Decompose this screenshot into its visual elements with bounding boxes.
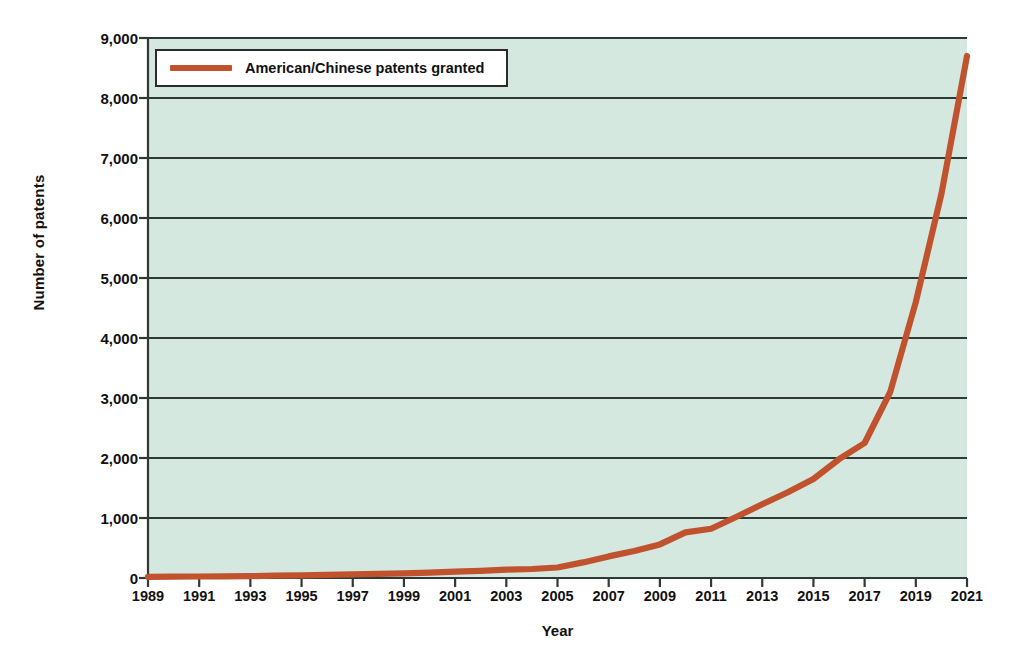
x-tick-label: 2009 [644,588,676,604]
x-tick-label: 1997 [337,588,369,604]
x-tick-label: 2021 [951,588,983,604]
x-tick-label: 1991 [183,588,215,604]
plot-area [0,0,1020,660]
legend-line-swatch [170,65,232,71]
x-tick-label: 1993 [234,588,266,604]
x-tick-label: 2015 [797,588,829,604]
x-tick-label: 1995 [285,588,317,604]
x-tick-label: 2005 [541,588,573,604]
y-axis [139,38,148,578]
x-tick-label: 2019 [900,588,932,604]
x-tick-label: 2011 [695,588,726,604]
x-axis-title: Year [148,622,967,639]
x-tick-label: 1989 [132,588,164,604]
x-tick-label: 2017 [848,588,880,604]
x-tick-label: 2003 [490,588,522,604]
legend-label: American/Chinese patents granted [245,60,484,76]
x-axis [148,578,967,587]
x-tick-label: 2013 [746,588,778,604]
x-tick-label: 2001 [439,588,471,604]
patent-growth-line-chart: Number of patents 01,0002,0003,0004,0005… [0,0,1020,660]
legend: American/Chinese patents granted [155,49,508,87]
x-tick-label: 2007 [593,588,625,604]
x-tick-label: 1999 [388,588,420,604]
plot-background [148,38,967,578]
